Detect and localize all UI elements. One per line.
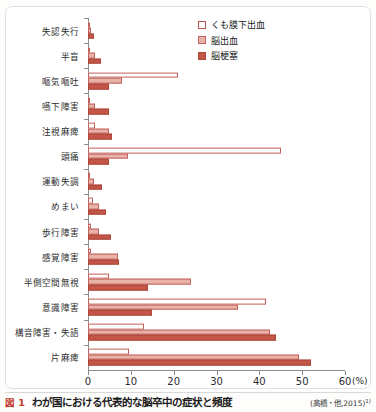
bar-2 <box>88 33 94 39</box>
bar-2 <box>88 360 311 366</box>
legend-label: 脳梗塞 <box>211 49 238 62</box>
category-label: 半側空間無視 <box>24 276 79 288</box>
category-label: 嘔気嘔吐 <box>42 75 79 87</box>
y-axis-tick <box>84 244 88 245</box>
figure-container: 失認失行半盲嘔気嘔吐嚥下障害注視麻痺頭痛運動失調めまい歩行障害感覚障害半側空間無… <box>0 0 376 412</box>
caption-divider <box>5 392 371 393</box>
category-label: 片麻痺 <box>51 351 79 363</box>
bar-2 <box>88 84 109 90</box>
legend-item[interactable]: 脳出血 <box>198 34 265 47</box>
bar-2 <box>88 159 109 165</box>
bar-2 <box>88 134 112 140</box>
x-axis-tick-label: 40 <box>253 376 266 387</box>
y-axis-tick <box>84 269 88 270</box>
bar-group <box>88 223 345 240</box>
category-label: 意識障害 <box>42 301 79 313</box>
bar-row: めまい <box>88 194 345 219</box>
chart-legend: くも膜下出血脳出血脳梗塞 <box>198 18 265 65</box>
x-axis-tick-label: 50 <box>296 376 309 387</box>
legend-item[interactable]: くも膜下出血 <box>198 18 265 31</box>
bar-2 <box>88 285 148 291</box>
x-axis-tick <box>88 371 89 375</box>
bar-group <box>88 349 345 366</box>
figure-source: (高橋・他,2015)1) <box>310 397 371 408</box>
figure-caption-title: わが国における代表的な脳卒中の症状と頻度 <box>32 394 232 409</box>
y-axis-tick <box>84 43 88 44</box>
bar-group <box>88 198 345 215</box>
bar-2 <box>88 335 276 341</box>
category-label: 半盲 <box>61 50 79 62</box>
bar-group <box>88 72 345 89</box>
figure-source-superscript: 1) <box>365 398 371 404</box>
bar-2 <box>88 184 102 190</box>
bar-row: 頭痛 <box>88 144 345 169</box>
y-axis-tick <box>84 93 88 94</box>
bar-group <box>88 173 345 190</box>
figure-number: 図 1 <box>5 395 25 409</box>
bar-2 <box>88 259 119 265</box>
category-label: 構音障害・失語 <box>15 326 79 338</box>
x-axis-tick-label: 0 <box>85 376 91 387</box>
y-axis-tick <box>84 320 88 321</box>
y-axis-tick <box>84 219 88 220</box>
bar-group <box>88 123 345 140</box>
bar-group <box>88 324 345 341</box>
y-axis-tick <box>84 68 88 69</box>
figure-source-text: (高橋・他,2015) <box>310 399 365 408</box>
figure-caption: 図 1 わが国における代表的な脳卒中の症状と頻度 (高橋・他,2015)1) <box>5 394 371 409</box>
bar-row: 注視麻痺 <box>88 119 345 144</box>
x-axis-tick-label: 60 <box>339 376 352 387</box>
y-axis-tick <box>84 294 88 295</box>
category-label: 嚥下障害 <box>42 100 79 112</box>
bar-group <box>88 299 345 316</box>
bar-group <box>88 248 345 265</box>
bar-row: 感覚障害 <box>88 244 345 269</box>
x-axis-tick <box>174 371 175 375</box>
x-axis-tick <box>345 371 346 375</box>
bar-row: 意識障害 <box>88 294 345 319</box>
open-square-swatch <box>198 21 206 29</box>
x-axis-tick-label: 20 <box>167 376 180 387</box>
bar-group <box>88 98 345 115</box>
bar-row: 構音障害・失語 <box>88 320 345 345</box>
category-label: 失認失行 <box>42 25 79 37</box>
category-label: 感覚障害 <box>42 251 79 263</box>
bar-2 <box>88 209 106 215</box>
y-axis-tick <box>84 144 88 145</box>
bar-row: 嚥下障害 <box>88 93 345 118</box>
x-axis-tick <box>259 371 260 375</box>
x-axis-tick <box>217 371 218 375</box>
bar-row: 片麻痺 <box>88 345 345 370</box>
legend-label: 脳出血 <box>211 34 238 47</box>
y-axis-tick <box>84 119 88 120</box>
bar-2 <box>88 109 109 115</box>
legend-item[interactable]: 脳梗塞 <box>198 49 265 62</box>
category-label: めまい <box>51 200 79 212</box>
bar-row: 嘔気嘔吐 <box>88 68 345 93</box>
category-label: 運動失調 <box>42 175 79 187</box>
y-axis-tick <box>84 18 88 19</box>
bar-group <box>88 148 345 165</box>
y-axis-tick <box>84 169 88 170</box>
x-axis-unit-label: (%) <box>352 376 368 386</box>
x-axis-tick-label: 30 <box>210 376 223 387</box>
light-pink-square-swatch <box>198 36 206 44</box>
bar-2 <box>88 310 152 316</box>
legend-label: くも膜下出血 <box>211 18 265 31</box>
bar-row: 半側空間無視 <box>88 269 345 294</box>
category-label: 注視麻痺 <box>42 125 79 137</box>
bar-row: 運動失調 <box>88 169 345 194</box>
x-axis-tick <box>302 371 303 375</box>
bar-row: 歩行障害 <box>88 219 345 244</box>
bar-group <box>88 273 345 290</box>
x-axis-tick-label: 10 <box>124 376 137 387</box>
bar-2 <box>88 234 111 240</box>
bar-rows: 失認失行半盲嘔気嘔吐嚥下障害注視麻痺頭痛運動失調めまい歩行障害感覚障害半側空間無… <box>88 18 345 370</box>
category-label: 頭痛 <box>61 150 79 162</box>
y-axis-tick <box>84 345 88 346</box>
bar-2 <box>88 58 101 64</box>
x-axis-ticks: 0102030405060 <box>88 371 345 391</box>
dark-terracotta-square-swatch <box>198 52 206 60</box>
category-label: 歩行障害 <box>42 226 79 238</box>
y-axis-tick <box>84 194 88 195</box>
